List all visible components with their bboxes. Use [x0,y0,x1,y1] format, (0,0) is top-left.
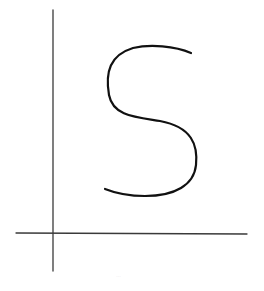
x-axis-line [16,233,247,234]
s-curve-stroke [105,46,196,196]
diagram-canvas [0,0,264,291]
faint-footer-mark: … [116,272,121,278]
